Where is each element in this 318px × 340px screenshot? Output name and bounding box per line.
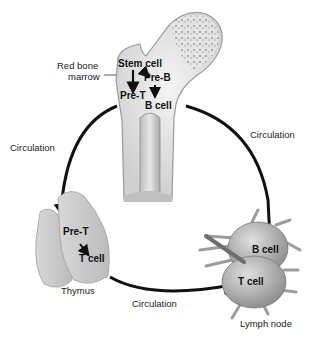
stem-cell-label: Stem cell (118, 58, 162, 69)
circulation-arrow-thymus-to-lymph-node (110, 277, 232, 291)
diagram-canvas (0, 0, 318, 340)
red-bone-marrow-label-line2: marrow (68, 71, 100, 82)
circulation-right-label: Circulation (250, 129, 295, 140)
circulation-arrow-to-lymph-node (186, 106, 270, 240)
circulation-bottom-label: Circulation (132, 298, 177, 309)
red-bone-marrow-label-line1: Red bone (57, 60, 98, 71)
pre-t-thymus-label: Pre-T (63, 226, 89, 237)
lymph-node-label: Lymph node (240, 318, 292, 329)
t-cell-thymus-label: T cell (79, 253, 105, 264)
thymus-illustration (36, 191, 110, 287)
circulation-left-label: Circulation (10, 142, 55, 153)
lymph-node-illustration (200, 210, 300, 318)
thymus-label: Thymus (61, 285, 95, 296)
b-cell-bone-label: B cell (145, 100, 172, 111)
b-cell-lymph-label: B cell (252, 244, 279, 255)
t-cell-lymph-label: T cell (238, 276, 264, 287)
pre-t-bone-label: Pre-T (120, 90, 146, 101)
pre-b-label: Pre-B (144, 72, 171, 83)
